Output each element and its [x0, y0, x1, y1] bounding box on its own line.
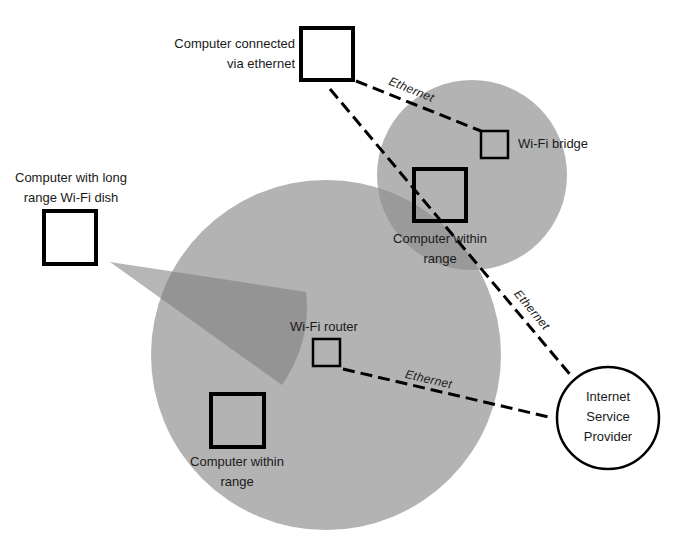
wifi-router-label: Wi-Fi router: [290, 317, 358, 337]
network-diagram: [0, 0, 676, 554]
label-line: via ethernet: [150, 54, 295, 74]
label-line: Provider: [568, 427, 648, 447]
computer-dish-label: Computer with long range Wi-Fi dish: [0, 168, 142, 208]
label-line: range: [375, 249, 505, 269]
label-line: Computer connected: [150, 34, 295, 54]
label-line: Computer within: [375, 229, 505, 249]
computer-ethernet-box[interactable]: [301, 28, 353, 80]
computer-bridge-range-label: Computer within range: [375, 229, 505, 269]
label-line: range Wi-Fi dish: [0, 188, 142, 208]
computer-ethernet-label: Computer connected via ethernet: [150, 34, 295, 74]
computer-router-range-label: Computer within range: [172, 452, 302, 492]
label-line: Internet: [568, 387, 648, 407]
label-line: Service: [568, 407, 648, 427]
wifi-bridge-label: Wi-Fi bridge: [518, 134, 588, 154]
label-line: Computer with long: [0, 168, 142, 188]
computer-dish-box[interactable]: [44, 211, 96, 264]
isp-label: Internet Service Provider: [568, 387, 648, 447]
label-line: Computer within: [172, 452, 302, 472]
label-line: range: [172, 472, 302, 492]
